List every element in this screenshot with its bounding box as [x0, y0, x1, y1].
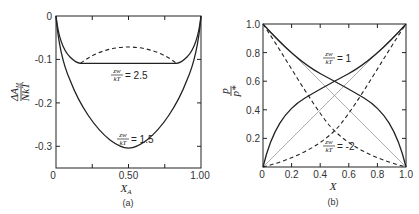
panel-a-xtick-2: 1.00 [190, 170, 210, 181]
panel-b-xtick-0.8: 0.8 [370, 169, 384, 180]
panel-a-ytick-2: -0.2 [35, 98, 53, 109]
panel-a-xtick-1: 0.50 [119, 170, 139, 181]
svg-text:zw: zw [324, 50, 333, 58]
panel-b-ytick-0.6: 0.6 [246, 76, 260, 87]
panel-b-ylabel: p p* [218, 85, 241, 98]
svg-text:= 2.5: = 2.5 [125, 70, 148, 81]
panel-a-ytick-3: -0.3 [35, 141, 53, 152]
panel-b-xtick-0.6: 0.6 [342, 169, 356, 180]
panel-b-xtick-0.2: 0.2 [285, 169, 299, 180]
svg-text:kT: kT [326, 146, 334, 154]
panel-a-caption: (a) [123, 198, 134, 208]
curve-zw-1.5 [56, 16, 201, 148]
panel-b-ytick-0.4: 0.4 [246, 105, 260, 116]
svg-text:kT: kT [114, 75, 122, 83]
panel-b-xtick-0: 0 [259, 169, 265, 180]
panel-b-ytick-0.2: 0.2 [246, 133, 260, 144]
svg-text:kT: kT [326, 58, 334, 66]
svg-text:p*: p* [229, 85, 241, 98]
panel-a-xtick-0: 0 [50, 170, 56, 181]
svg-text:= -2: = -2 [337, 141, 355, 152]
curve-zw-2.5-unstable [81, 47, 177, 63]
panel-a-ytick-1: -0.1 [35, 54, 53, 65]
panel-a-annotation-2.5: zw kT = 2.5 [111, 67, 148, 83]
svg-text:kT: kT [120, 139, 128, 147]
panel-a-xlabel: XA [119, 182, 132, 196]
figure: 0 -0.1 -0.2 -0.3 0 0.50 1.00 ΔAM NkT XA … [0, 0, 419, 214]
svg-text:= 1: = 1 [337, 53, 352, 64]
panel-b-annotation-neg2: zw kT = -2 [323, 138, 355, 154]
panel-b-ytick-1.0: 1.0 [246, 19, 260, 30]
svg-text:zw: zw [112, 67, 121, 75]
panel-a-ticks [56, 16, 201, 168]
panel-a-frame [56, 16, 201, 168]
panel-b-xtick-0.4: 0.4 [313, 169, 327, 180]
curve-zw-2.5-stable [56, 16, 201, 63]
svg-text:= 1.5: = 1.5 [131, 134, 154, 145]
panel-b-caption: (b) [328, 197, 339, 207]
svg-text:zw: zw [324, 138, 333, 146]
svg-text:NkT: NkT [19, 82, 31, 102]
svg-text:zw: zw [118, 131, 127, 139]
panel-a-annotation-1.5: zw kT = 1.5 [117, 131, 154, 147]
panel-b: 0.2 0.4 0.6 0.8 1.0 0 0.2 0.4 0.6 0.8 1.… [218, 19, 413, 207]
panel-b-ytick-0.8: 0.8 [246, 48, 260, 59]
panel-b-annotation-1: zw kT = 1 [323, 50, 352, 66]
panel-a-ytick-0: 0 [46, 11, 52, 22]
panel-b-xlabel: X [329, 180, 338, 192]
panel-b-xtick-1.0: 1.0 [399, 169, 413, 180]
panel-a: 0 -0.1 -0.2 -0.3 0 0.50 1.00 ΔAM NkT XA … [8, 11, 210, 209]
panel-a-ylabel: ΔAM NkT [8, 82, 31, 102]
